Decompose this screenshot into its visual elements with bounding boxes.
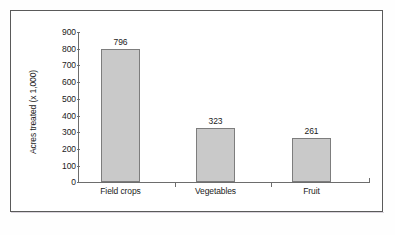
y-tick-800-text: 800 bbox=[62, 44, 76, 54]
bar-value-label-fruit: 261 bbox=[282, 126, 341, 136]
bar-value-label-field-crops: 796 bbox=[91, 37, 150, 47]
y-tick-900: 900 bbox=[40, 28, 76, 37]
y-tick-400-text: 400 bbox=[62, 111, 76, 121]
y-tick-100: 100 bbox=[40, 162, 76, 171]
bar-chart: Acres treated (x 1,000) 900 800 700 600 … bbox=[0, 0, 395, 235]
x-category-label-vegetables: Vegetables bbox=[181, 186, 250, 196]
y-tick-400: 400 bbox=[40, 112, 76, 121]
x-axis-line bbox=[78, 182, 370, 183]
y-tick-900-text: 900 bbox=[62, 27, 76, 37]
y-tick-200: 200 bbox=[40, 145, 76, 154]
bar-value-label-vegetables: 323 bbox=[186, 116, 245, 126]
y-tick-500: 500 bbox=[40, 95, 76, 104]
y-axis-title: Acres treated (x 1,000) bbox=[28, 32, 38, 192]
y-tick-0-text: 0 bbox=[71, 177, 76, 187]
bar-fruit[interactable] bbox=[292, 138, 331, 182]
y-tick-600-text: 600 bbox=[62, 77, 76, 87]
y-tick-200-text: 200 bbox=[62, 144, 76, 154]
bar-field-crops[interactable] bbox=[101, 49, 140, 182]
y-tick-700: 700 bbox=[40, 61, 76, 70]
x-category-label-field-crops: Field crops bbox=[86, 186, 155, 196]
x-axis-separator-1 bbox=[175, 183, 176, 187]
y-tick-700-text: 700 bbox=[62, 60, 76, 70]
bar-vegetables[interactable] bbox=[196, 128, 235, 182]
plot-area: 796 323 261 bbox=[78, 32, 370, 182]
y-tick-100-text: 100 bbox=[62, 161, 76, 171]
y-axis-tick-labels: 900 800 700 600 500 400 bbox=[40, 28, 76, 188]
y-tick-0: 0 bbox=[40, 178, 76, 187]
y-tick-300-text: 300 bbox=[62, 127, 76, 137]
x-category-label-fruit: Fruit bbox=[277, 186, 346, 196]
y-tick-300: 300 bbox=[40, 128, 76, 137]
x-axis-separator-2 bbox=[271, 183, 272, 187]
y-tick-600: 600 bbox=[40, 78, 76, 87]
chart-page: Acres treated (x 1,000) 900 800 700 600 … bbox=[0, 0, 395, 235]
y-tick-500-text: 500 bbox=[62, 94, 76, 104]
y-tick-800: 800 bbox=[40, 45, 76, 54]
